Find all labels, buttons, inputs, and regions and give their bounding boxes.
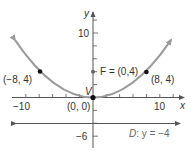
y-tick-label-neg6: −6 [76, 131, 88, 142]
directrix-label: D: y = −4 [129, 128, 170, 139]
y-tick-label-10: 10 [78, 28, 90, 39]
x-tick-label-neg10: −10 [13, 101, 30, 112]
x-tick-label-10: 10 [154, 101, 166, 112]
parabola-chart: y x −10 10 10 −6 (0, 0) V F = (0,4) (−8,… [0, 0, 191, 154]
focus-point [91, 70, 95, 74]
y-axis-label: y [83, 8, 90, 19]
right-point-label: (8, 4) [151, 74, 174, 85]
y-axis-ticks [93, 20, 98, 136]
x-axis-label: x [179, 100, 186, 111]
directrix-letter: D [129, 128, 136, 139]
directrix-equation: : y = −4 [136, 128, 170, 139]
left-point [38, 69, 43, 74]
origin-label: (0, 0) [67, 101, 90, 112]
focus-label: F = (0,4) [100, 66, 138, 77]
left-point-label: (−8, 4) [3, 74, 32, 85]
right-point [144, 70, 149, 75]
